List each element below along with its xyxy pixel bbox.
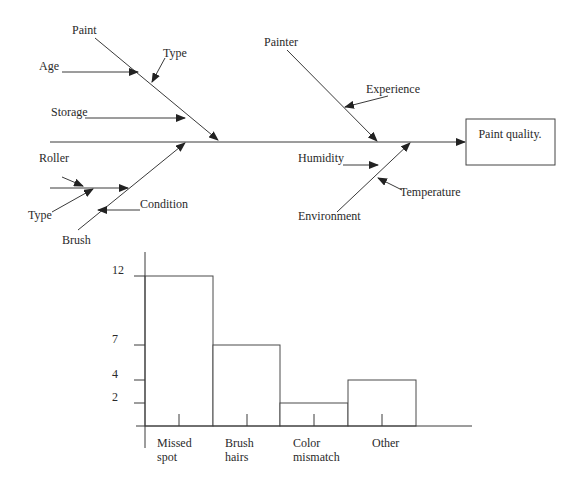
cause-branch-brush: Brush Roller Type Condition bbox=[28, 143, 188, 247]
effect-label: Paint quality. bbox=[478, 127, 541, 141]
subcause-label-roller: Roller bbox=[39, 151, 69, 165]
y-tick-label: 4 bbox=[112, 367, 118, 381]
bar-missed-spot bbox=[145, 276, 213, 426]
subcause-label-temperature: Temperature bbox=[400, 185, 460, 199]
paint-bone-arrow bbox=[95, 38, 218, 140]
subcause-label-age: Age bbox=[39, 59, 59, 73]
y-ticks: 12 7 4 2 bbox=[112, 263, 145, 404]
experience-arrow bbox=[345, 96, 388, 107]
x-label-brush-hairs-line1: Brush bbox=[225, 436, 254, 450]
x-category-labels: Missed spot Brush hairs Color mismatch O… bbox=[157, 436, 399, 464]
cause-label-brush: Brush bbox=[62, 233, 91, 247]
x-label-missed-spot-line1: Missed bbox=[157, 436, 192, 450]
y-tick-label: 7 bbox=[112, 332, 118, 346]
y-tick-label: 2 bbox=[112, 390, 118, 404]
fishbone-diagram: Paint quality. Paint Age Type Storage Br… bbox=[28, 23, 555, 247]
painter-bone-arrow bbox=[287, 50, 377, 141]
cause-branch-painter: Painter Experience bbox=[264, 35, 420, 141]
x-label-missed-spot-line2: spot bbox=[157, 450, 178, 464]
fishbone-and-pareto-figure: Paint quality. Paint Age Type Storage Br… bbox=[0, 0, 583, 491]
cause-label-paint: Paint bbox=[72, 23, 97, 37]
environment-bone-arrow bbox=[337, 143, 410, 212]
roller-arrow bbox=[62, 177, 83, 186]
subcause-label-condition: Condition bbox=[140, 197, 188, 211]
subcause-label-experience: Experience bbox=[366, 82, 420, 96]
x-label-color-mismatch-line1: Color bbox=[293, 436, 320, 450]
brush-type-arrow bbox=[52, 189, 93, 212]
subcause-label-brush-type: Type bbox=[28, 208, 52, 222]
subcause-label-storage: Storage bbox=[51, 105, 88, 119]
x-label-color-mismatch-line2: mismatch bbox=[293, 450, 340, 464]
x-label-brush-hairs-line2: hairs bbox=[225, 450, 249, 464]
x-label-other: Other bbox=[372, 436, 399, 450]
y-tick-label: 12 bbox=[112, 263, 124, 277]
subcause-label-humidity: Humidity bbox=[298, 151, 344, 165]
brush-bone-arrow bbox=[78, 143, 185, 230]
bar-chart: 12 7 4 2 Missed spot Brush hairs Color m… bbox=[112, 252, 472, 464]
subcause-label-paint-type: Type bbox=[163, 46, 187, 60]
cause-branch-environment: Environment Humidity Temperature bbox=[298, 143, 460, 223]
cause-label-environment: Environment bbox=[298, 209, 361, 223]
effect-box: Paint quality. bbox=[466, 119, 555, 165]
bar-brush-hairs bbox=[213, 345, 280, 426]
cause-branch-paint: Paint Age Type Storage bbox=[39, 23, 218, 140]
temperature-arrow bbox=[378, 178, 402, 190]
cause-label-painter: Painter bbox=[264, 35, 298, 49]
paint-type-arrow bbox=[152, 58, 165, 82]
